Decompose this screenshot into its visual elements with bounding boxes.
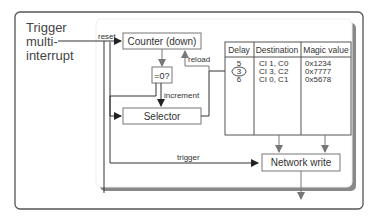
network-write-label: Network write (271, 157, 332, 168)
trigger-label: trigger (177, 153, 200, 162)
compare-label: =0? (154, 71, 169, 81)
trigger-input-line-3: interrupt (26, 49, 74, 63)
trigger-input-line-1: Trigger (26, 21, 74, 35)
row-3-delay: 6 (237, 75, 242, 84)
reset-label: reset (98, 32, 117, 41)
header-magic: Magic value (303, 45, 349, 55)
header-delay: Delay (228, 45, 250, 55)
trigger-input-label: Trigger multi- interrupt (26, 21, 74, 63)
increment-label: increment (164, 91, 200, 100)
header-destination: Destination (256, 45, 299, 55)
row-3-destination: CI 0, C1 (259, 75, 289, 84)
delay-table (225, 42, 351, 135)
reload-label: reload (188, 55, 210, 64)
row-3-magic: 0x5678 (305, 75, 332, 84)
trigger-input-line-2: multi- (26, 35, 74, 49)
selector-label: Selector (144, 111, 181, 122)
diagram-canvas: reset trigger Counter (down) =0? increme… (0, 0, 385, 216)
counter-label: Counter (down) (128, 36, 197, 47)
